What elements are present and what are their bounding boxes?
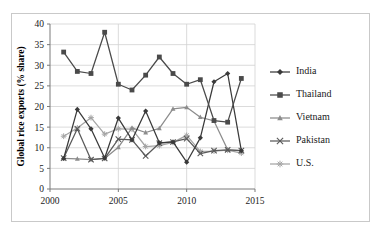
legend-label: India	[296, 65, 317, 76]
data-point-square	[102, 30, 107, 35]
data-point-square	[89, 71, 94, 76]
data-point-square	[212, 118, 217, 123]
legend-label: U.S.	[296, 157, 314, 168]
y-tick-label: 30	[35, 61, 45, 71]
series-pakistan	[61, 126, 244, 162]
data-point-asterisk	[277, 161, 284, 168]
data-point-square	[61, 50, 66, 55]
y-tick-label: 25	[35, 81, 45, 91]
data-point-triangle	[198, 115, 203, 120]
data-point-square	[130, 88, 135, 93]
data-point-square	[116, 82, 121, 87]
legend-item-pakistan[interactable]: Pakistan	[270, 134, 330, 145]
data-point-diamond	[143, 108, 148, 113]
legend-item-thailand[interactable]: Thailand	[270, 88, 332, 99]
legend-item-vietnam[interactable]: Vietnam	[270, 111, 330, 122]
data-point-square	[171, 71, 176, 76]
y-axis-title: Global rice exports (% share)	[16, 46, 27, 166]
y-tick-label: 35	[35, 40, 45, 50]
data-point-square	[277, 92, 283, 98]
rice-exports-line-chart: 05101520253035402000200520102015Global r…	[12, 14, 369, 221]
data-point-square	[225, 120, 230, 125]
x-tick-label: 2005	[109, 196, 128, 206]
data-point-diamond	[198, 135, 203, 140]
y-tick-label: 0	[39, 184, 44, 194]
series-thailand	[61, 30, 243, 125]
x-tick-label: 2000	[41, 196, 60, 206]
chart-figure: 05101520253035402000200520102015Global r…	[11, 13, 370, 222]
data-point-asterisk	[88, 115, 94, 121]
data-point-square	[143, 73, 148, 78]
x-tick-label: 2010	[177, 196, 196, 206]
legend-item-us[interactable]: U.S.	[270, 157, 314, 168]
data-point-diamond	[277, 69, 283, 75]
data-point-square	[239, 76, 244, 81]
y-tick-label: 10	[35, 143, 45, 153]
data-point-asterisk	[102, 131, 108, 137]
legend-label: Pakistan	[296, 134, 330, 145]
data-point-square	[157, 55, 162, 60]
series-line	[64, 32, 242, 122]
y-tick-label: 40	[35, 19, 45, 29]
y-tick-label: 20	[35, 102, 45, 112]
data-point-asterisk	[115, 126, 121, 132]
series-line	[64, 129, 242, 160]
y-tick-label: 5	[39, 164, 44, 174]
data-point-cross	[143, 153, 148, 158]
data-point-square	[184, 82, 189, 87]
legend-label: Thailand	[296, 88, 332, 99]
y-tick-label: 15	[35, 123, 45, 133]
x-tick-label: 2015	[246, 196, 265, 206]
data-point-square	[198, 77, 203, 82]
data-point-asterisk	[61, 133, 67, 139]
legend-item-india[interactable]: India	[270, 65, 317, 76]
legend-label: Vietnam	[296, 111, 330, 122]
data-point-square	[75, 69, 80, 74]
